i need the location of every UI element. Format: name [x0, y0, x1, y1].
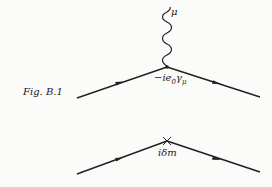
- incoming-fermion-line-2: [77, 141, 167, 174]
- vertex-factor-main: −ie: [154, 72, 172, 83]
- boson-index-label: μ: [171, 6, 178, 17]
- cross-vertex-icon: [163, 137, 171, 145]
- vertex-factor-gamma-sub: μ: [182, 78, 187, 86]
- figure-caption: Fig. B.1: [23, 86, 63, 97]
- mass-counterterm-label: iδm: [158, 147, 177, 158]
- outgoing-fermion-line-2: [167, 141, 260, 172]
- vertex-factor-label: −ie0γμ: [154, 72, 187, 86]
- vertex-dot: [165, 65, 169, 69]
